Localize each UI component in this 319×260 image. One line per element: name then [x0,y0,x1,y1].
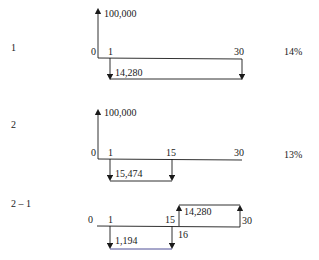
tick-0: 0 [91,46,96,57]
inflow-amount: 14,280 [184,206,212,217]
tick-0: 0 [88,214,93,225]
tick-0: 0 [91,147,96,158]
tick-30: 30 [234,46,244,57]
tick-15: 15 [165,214,175,225]
timeline [97,226,240,227]
interest-rate: 13% [284,149,302,160]
diagram-label: 2 [11,119,16,130]
outflow-amount: 15,474 [115,168,143,179]
timeline [98,58,242,59]
tick-30: 30 [242,215,252,226]
cash-flow-diagrams: 1 100,000 0 1 30 14% 14,280 2 100,000 0 … [0,0,319,260]
timeline [98,159,242,160]
outflow-amount: 14,280 [115,67,143,78]
inflow-amount: 100,000 [104,8,137,19]
outflow-amount: 1,194 [115,235,138,246]
diagram-label: 2 – 1 [11,198,31,209]
inflow-amount: 100,000 [104,107,137,118]
tick-1: 1 [108,46,113,57]
diagram-label: 1 [11,42,16,53]
tick-15: 15 [166,147,176,158]
interest-rate: 14% [284,46,302,57]
tick-16: 16 [178,229,188,240]
tick-1: 1 [108,214,113,225]
tick-30: 30 [234,147,244,158]
tick-1: 1 [108,147,113,158]
